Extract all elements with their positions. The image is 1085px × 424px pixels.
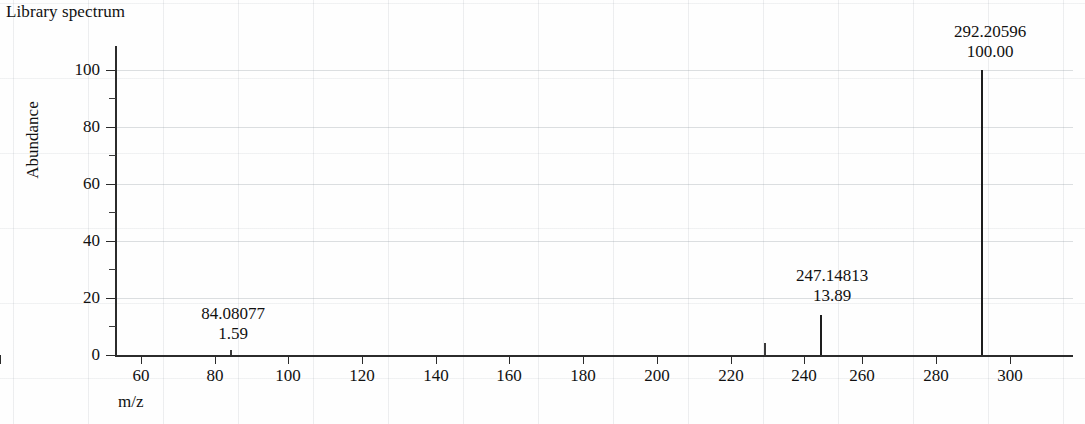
x-tick-label-180: 180 — [570, 366, 596, 386]
x-tick-60 — [141, 355, 142, 364]
y-tick-50 — [109, 212, 116, 213]
y-tick-label-0: 0 — [48, 345, 100, 365]
x-tick-label-60: 60 — [133, 366, 150, 386]
y-tick-90 — [109, 98, 116, 99]
x-tick-140 — [436, 355, 437, 364]
x-tick-240 — [804, 355, 805, 364]
peak-mz-84: 84.08077 — [201, 304, 265, 324]
x-tick-label-280: 280 — [923, 366, 949, 386]
x-tick-label-300: 300 — [997, 366, 1023, 386]
peak-abundance-292: 100.00 — [954, 42, 1026, 62]
x-tick-label-200: 200 — [644, 366, 670, 386]
y-tick-80 — [106, 127, 116, 128]
peak-abundance-247: 13.89 — [796, 286, 868, 306]
x-axis-line — [115, 355, 1073, 357]
x-tick-220 — [731, 355, 732, 364]
x-tick-260 — [862, 355, 863, 364]
gridline-40 — [116, 241, 1073, 242]
x-tick-label-260: 260 — [849, 366, 875, 386]
spectrum-page: Library spectrum 100 80 60 40 20 0 — [0, 0, 1085, 424]
y-tick-label-80: 80 — [48, 117, 100, 137]
peak-label-247: 247.14813 13.89 — [796, 266, 868, 306]
x-tick-80 — [215, 355, 216, 364]
y-tick-label-40: 40 — [48, 231, 100, 251]
y-tick-100 — [106, 70, 116, 71]
peak-abundance-84: 1.59 — [201, 324, 265, 344]
x-tick-label-160: 160 — [496, 366, 522, 386]
x-tick-280 — [936, 355, 937, 364]
y-tick-70 — [109, 155, 116, 156]
x-tick-120 — [362, 355, 363, 364]
y-tick-60 — [106, 184, 116, 185]
x-axis-title: m/z — [118, 392, 144, 412]
y-tick-30 — [109, 269, 116, 270]
peak-label-292: 292.20596 100.00 — [954, 22, 1026, 62]
y-tick-0 — [106, 355, 116, 356]
gridline-100 — [116, 70, 1073, 71]
peak-247 — [820, 315, 822, 355]
y-axis-line — [115, 46, 117, 357]
x-tick-label-240: 240 — [791, 366, 817, 386]
y-tick-40 — [106, 241, 116, 242]
x-tick-label-80: 80 — [207, 366, 224, 386]
peak-mz-292: 292.20596 — [954, 22, 1026, 42]
x-tick-label-220: 220 — [718, 366, 744, 386]
x-tick-300 — [1010, 355, 1011, 364]
peak-label-84: 84.08077 1.59 — [201, 304, 265, 344]
x-tick-label-100: 100 — [275, 366, 301, 386]
x-tick-label-140: 140 — [423, 366, 449, 386]
y-tick-label-20: 20 — [48, 288, 100, 308]
y-axis-title: Abundance — [23, 80, 43, 200]
gridline-80 — [116, 127, 1073, 128]
x-tick-100 — [288, 355, 289, 364]
gridline-60 — [116, 184, 1073, 185]
peak-229-unlabeled — [764, 343, 766, 355]
peak-84 — [230, 350, 232, 355]
x-tick-180b — [583, 355, 584, 364]
peak-mz-247: 247.14813 — [796, 266, 868, 286]
y-tick-label-60: 60 — [48, 174, 100, 194]
peak-292-base — [981, 70, 983, 355]
spectrum-plot-area: 100 80 60 40 20 0 60 80 100 120 140 160 … — [0, 0, 1085, 424]
y-tick-10 — [109, 326, 116, 327]
x-tick-180 — [0, 355, 1, 364]
x-tick-200 — [657, 355, 658, 364]
y-tick-20 — [106, 298, 116, 299]
y-tick-label-100: 100 — [48, 60, 100, 80]
x-tick-160 — [509, 355, 510, 364]
gridline-20 — [116, 298, 1073, 299]
x-tick-label-120: 120 — [349, 366, 375, 386]
